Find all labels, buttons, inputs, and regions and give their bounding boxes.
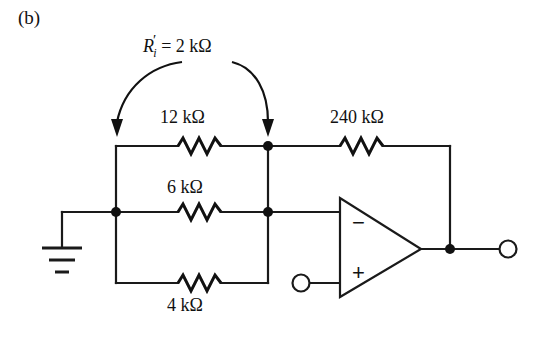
annotation-arrow-right	[232, 62, 274, 137]
panel-label: (b)	[18, 8, 40, 27]
junction-dot-output	[445, 244, 455, 254]
opamp-noninverting-sign: +	[352, 262, 365, 284]
branch-12k	[116, 138, 268, 154]
output-wire	[421, 241, 517, 258]
resistor-label-6k: 6 kΩ	[167, 178, 203, 196]
circuit-figure: (b) R′i = 2 kΩ 12 kΩ 240 kΩ 6 kΩ 4 kΩ − …	[0, 0, 539, 347]
junction-dot-top-right	[263, 141, 273, 151]
resistor-label-12k: 12 kΩ	[160, 108, 205, 126]
annotation-value: 2 kΩ	[176, 36, 212, 56]
ground-branch	[42, 212, 116, 272]
annotation-label: R′i = 2 kΩ	[143, 33, 212, 59]
resistor-label-240k: 240 kΩ	[330, 108, 384, 126]
output-terminal-circle[interactable]	[500, 241, 517, 258]
noninverting-input-wire	[293, 275, 341, 292]
resistor-label-4k: 4 kΩ	[167, 296, 203, 314]
annotation-equals: =	[161, 36, 171, 56]
circuit-schematic-canvas	[0, 0, 539, 347]
noninverting-input-terminal-circle[interactable]	[293, 275, 310, 292]
branch-6k	[116, 204, 268, 220]
opamp-inverting-sign: −	[352, 212, 365, 234]
junction-dot-middle-right	[263, 207, 273, 217]
annotation-subscript: i	[153, 46, 156, 60]
junction-dot-middle-left	[111, 207, 121, 217]
branch-4k	[116, 275, 268, 291]
